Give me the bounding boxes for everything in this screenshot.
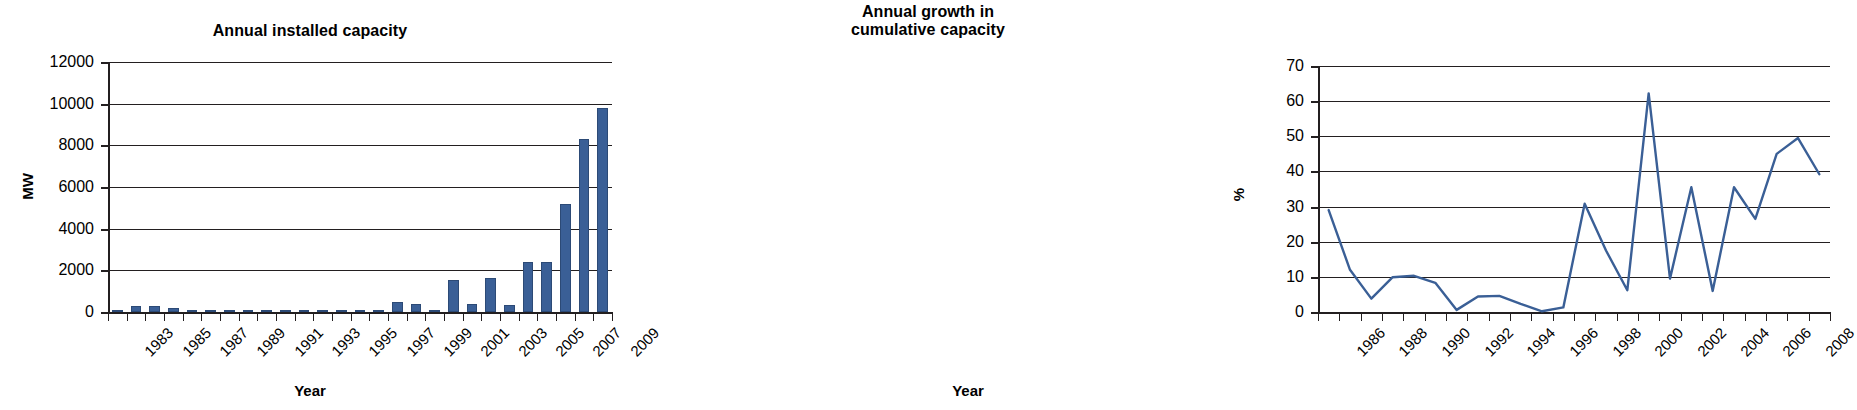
y-tick-mark-10000: [101, 104, 108, 106]
y-tick-mark-2000: [101, 270, 108, 272]
y-tick-mark-12000: [101, 62, 108, 64]
x-tick: [537, 312, 538, 321]
x-tick: [257, 312, 258, 321]
x-tick: [1425, 312, 1426, 321]
x-label-container: 1983198519871989199119931995199719992001…: [108, 324, 612, 384]
x-tick: [164, 312, 165, 321]
x-tick: [1339, 312, 1340, 321]
y-tick-label-10000: 10000: [50, 95, 95, 113]
x-tick-label: 2001: [477, 324, 513, 360]
y-tick-mark-40: [1311, 171, 1318, 173]
x-tick: [1595, 312, 1596, 321]
x-tick: [1467, 312, 1468, 321]
x-tick: [145, 312, 146, 321]
chart-panel-annual-growth: Annual growth in cumulative capacity % Y…: [618, 0, 1238, 410]
x-tick-label: 1988: [1395, 324, 1431, 360]
x-tick-label: 1986: [1352, 324, 1388, 360]
x-tick-label: 1990: [1438, 324, 1474, 360]
x-label-container: 1986198819901992199419961998200020022004…: [1318, 324, 1830, 384]
y-tick-mark-10: [1311, 277, 1318, 279]
y-tick-label-20: 20: [1286, 233, 1304, 251]
x-tick: [556, 312, 557, 321]
x-tick-label: 2005: [552, 324, 588, 360]
chart-title-right: Annual growth in cumulative capacity: [618, 3, 1238, 39]
x-tick-label: 2002: [1694, 324, 1730, 360]
x-tick-label: 1983: [141, 324, 177, 360]
chart-panel-annual-installed-capacity: Annual installed capacity MW Year 020004…: [0, 0, 620, 410]
x-tick: [1787, 312, 1788, 321]
x-tick: [1702, 312, 1703, 321]
y-tick-mark-50: [1311, 136, 1318, 138]
y-tick-label-10: 10: [1286, 268, 1304, 286]
x-tick: [201, 312, 202, 321]
x-axis-label-year-right: Year: [698, 382, 1238, 399]
chart-title-left: Annual installed capacity: [0, 22, 620, 40]
x-tick-label: 1993: [328, 324, 364, 360]
x-tick: [295, 312, 296, 321]
x-tick: [1318, 312, 1319, 321]
x-tick-label: 2008: [1822, 324, 1857, 360]
x-tick: [444, 312, 445, 321]
y-tick-mark-30: [1311, 207, 1318, 209]
x-tick: [425, 312, 426, 321]
bar-2002: [467, 304, 477, 312]
y-tick-label-40: 40: [1286, 162, 1304, 180]
x-tick: [313, 312, 314, 321]
x-tick: [276, 312, 277, 321]
x-tick-label: 2006: [1779, 324, 1815, 360]
x-tick: [1361, 312, 1362, 321]
y-tick-label-4000: 4000: [58, 220, 94, 238]
x-tick: [1745, 312, 1746, 321]
x-tick: [1446, 312, 1447, 321]
x-tick: [1809, 312, 1810, 321]
x-tick: [1659, 312, 1660, 321]
y-tick-mark-0: [1311, 312, 1318, 314]
x-tick-label: 1994: [1523, 324, 1559, 360]
y-axis-label-mw: MW: [19, 173, 36, 200]
x-tick-label: 2000: [1651, 324, 1687, 360]
x-tick: [612, 312, 613, 321]
y-tick-label-50: 50: [1286, 127, 1304, 145]
growth-polyline: [1329, 93, 1820, 311]
x-tick: [1510, 312, 1511, 321]
x-tick: [1681, 312, 1682, 321]
x-tick-label: 1987: [216, 324, 252, 360]
x-tick: [1617, 312, 1618, 321]
chart-title-right-line1: Annual growth in: [618, 3, 1238, 21]
x-tick-label: 1991: [290, 324, 326, 360]
x-tick: [1766, 312, 1767, 321]
bar-2004: [504, 305, 514, 312]
bar-2003: [485, 278, 495, 312]
x-tick: [500, 312, 501, 321]
x-tick-label: 1997: [402, 324, 438, 360]
x-tick: [575, 312, 576, 321]
chart-title-right-line2: cumulative capacity: [618, 21, 1238, 39]
y-tick-label-8000: 8000: [58, 136, 94, 154]
x-axis-label-year: Year: [0, 382, 620, 399]
x-tick: [1574, 312, 1575, 321]
y-tick-mark-60: [1311, 101, 1318, 103]
x-tick-label: 1985: [178, 324, 214, 360]
x-tick: [519, 312, 520, 321]
x-tick-label: 1998: [1608, 324, 1644, 360]
x-tick: [351, 312, 352, 321]
x-tick: [1553, 312, 1554, 321]
x-tick-label: 1995: [365, 324, 401, 360]
bar-2006: [541, 262, 551, 312]
line-series-annual-growth: [1318, 66, 1830, 312]
plot-area-left: 0200040006000800010000120001983198519871…: [108, 62, 612, 312]
x-tick: [332, 312, 333, 321]
bar-2008: [579, 139, 589, 312]
bar-2009: [597, 108, 607, 312]
x-tick: [1830, 312, 1831, 321]
bar-2007: [560, 204, 570, 312]
x-tick-container: [1318, 312, 1830, 321]
y-tick-label-0: 0: [1295, 303, 1304, 321]
x-tick: [1723, 312, 1724, 321]
x-tick: [481, 312, 482, 321]
x-tick: [1531, 312, 1532, 321]
bar-1999: [411, 304, 421, 312]
y-tick-mark-20: [1311, 242, 1318, 244]
x-tick: [239, 312, 240, 321]
x-tick-label: 2004: [1736, 324, 1772, 360]
